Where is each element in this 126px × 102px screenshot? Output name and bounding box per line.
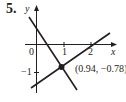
x-tick-label-1: 1: [62, 47, 67, 57]
intersection-point: [59, 64, 65, 70]
intersection-label: (0.94, −0.78): [75, 64, 126, 74]
y-axis-arrow-icon: [34, 5, 39, 11]
y-axis-label: y: [25, 4, 29, 14]
x-axis-label: x: [111, 47, 115, 57]
origin-label: 0: [29, 47, 34, 57]
problem-number: 5.: [6, 2, 17, 16]
x-tick-label-2: 2: [88, 47, 93, 57]
graph-figure: 5. y x 0 1 2 −1 (0.94, −0.78): [0, 0, 126, 102]
y-tick-label-neg1: −1: [21, 67, 32, 77]
